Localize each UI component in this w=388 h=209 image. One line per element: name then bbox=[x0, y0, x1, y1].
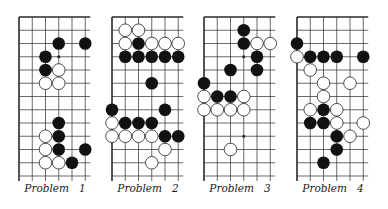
black-stone bbox=[119, 117, 132, 130]
black-stone bbox=[79, 143, 92, 156]
white-stone bbox=[39, 130, 52, 143]
white-stone bbox=[317, 90, 330, 103]
white-stone bbox=[119, 24, 132, 37]
white-stone bbox=[159, 37, 172, 50]
white-stone bbox=[237, 103, 250, 116]
black-stone bbox=[79, 37, 92, 50]
black-stone bbox=[52, 130, 65, 143]
black-stone bbox=[145, 50, 158, 63]
white-stone bbox=[172, 37, 185, 50]
white-stone bbox=[251, 37, 264, 50]
white-stone bbox=[52, 77, 65, 90]
star-point bbox=[57, 55, 60, 58]
black-stone bbox=[132, 50, 145, 63]
white-stone bbox=[52, 64, 65, 77]
black-stone bbox=[304, 117, 317, 130]
white-stone bbox=[304, 103, 317, 116]
white-stone bbox=[344, 77, 357, 90]
black-stone bbox=[159, 103, 172, 116]
black-stone bbox=[106, 103, 119, 116]
white-stone bbox=[317, 77, 330, 90]
white-stone bbox=[344, 130, 357, 143]
black-stone bbox=[357, 50, 370, 63]
black-stone bbox=[317, 50, 330, 63]
go-board-1 bbox=[19, 17, 92, 181]
black-stone bbox=[172, 50, 185, 63]
go-board-2 bbox=[106, 17, 185, 181]
problem-label-2: Problem 2 bbox=[103, 182, 193, 194]
go-problems-figure bbox=[0, 0, 388, 209]
black-stone bbox=[317, 103, 330, 116]
black-stone bbox=[224, 90, 237, 103]
go-board-3 bbox=[198, 17, 277, 181]
white-stone bbox=[145, 130, 158, 143]
white-stone bbox=[132, 130, 145, 143]
white-stone bbox=[132, 24, 145, 37]
black-stone bbox=[224, 64, 237, 77]
black-stone bbox=[198, 77, 211, 90]
black-stone bbox=[237, 37, 250, 50]
star-point bbox=[242, 135, 245, 138]
black-stone bbox=[251, 64, 264, 77]
black-stone bbox=[172, 130, 185, 143]
black-stone bbox=[39, 50, 52, 63]
black-stone bbox=[330, 143, 343, 156]
black-stone bbox=[132, 117, 145, 130]
black-stone bbox=[317, 117, 330, 130]
black-stone bbox=[237, 24, 250, 37]
white-stone bbox=[119, 37, 132, 50]
black-stone bbox=[159, 50, 172, 63]
white-stone bbox=[291, 50, 304, 63]
white-stone bbox=[357, 117, 370, 130]
white-stone bbox=[330, 103, 343, 116]
white-stone bbox=[145, 37, 158, 50]
black-stone bbox=[304, 50, 317, 63]
problem-label-3: Problem 3 bbox=[195, 182, 285, 194]
black-stone bbox=[39, 64, 52, 77]
white-stone bbox=[198, 90, 211, 103]
black-stone bbox=[52, 143, 65, 156]
problem-label-4: Problem 4 bbox=[288, 182, 378, 194]
black-stone bbox=[317, 156, 330, 169]
black-stone bbox=[330, 130, 343, 143]
white-stone bbox=[39, 77, 52, 90]
white-stone bbox=[39, 143, 52, 156]
star-point bbox=[242, 55, 245, 58]
white-stone bbox=[106, 130, 119, 143]
white-stone bbox=[119, 130, 132, 143]
problem-label-1: Problem 1 bbox=[10, 182, 100, 194]
white-stone bbox=[106, 117, 119, 130]
black-stone bbox=[251, 50, 264, 63]
go-board-4 bbox=[291, 17, 370, 181]
black-stone bbox=[291, 37, 304, 50]
white-stone bbox=[264, 37, 277, 50]
white-stone bbox=[52, 156, 65, 169]
white-stone bbox=[237, 90, 250, 103]
black-stone bbox=[52, 37, 65, 50]
black-stone bbox=[52, 117, 65, 130]
white-stone bbox=[224, 103, 237, 116]
white-stone bbox=[159, 143, 172, 156]
white-stone bbox=[198, 103, 211, 116]
black-stone bbox=[132, 37, 145, 50]
black-stone bbox=[330, 50, 343, 63]
black-stone bbox=[145, 117, 158, 130]
white-stone bbox=[224, 143, 237, 156]
black-stone bbox=[159, 130, 172, 143]
black-stone bbox=[211, 90, 224, 103]
white-stone bbox=[211, 103, 224, 116]
white-stone bbox=[145, 156, 158, 169]
black-stone bbox=[66, 156, 79, 169]
white-stone bbox=[330, 117, 343, 130]
black-stone bbox=[145, 77, 158, 90]
white-stone bbox=[304, 64, 317, 77]
white-stone bbox=[39, 156, 52, 169]
black-stone bbox=[119, 50, 132, 63]
